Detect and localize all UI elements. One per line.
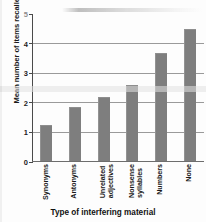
- x-tick-label: None: [186, 164, 194, 182]
- x-tick-label-line: Nonsense: [128, 164, 136, 198]
- x-tick-label-line: Antonyms: [70, 164, 78, 199]
- gridline: [32, 132, 204, 133]
- plot-area: 012345: [32, 14, 204, 162]
- x-tick-label: Synonyms: [43, 164, 51, 200]
- y-axis-line: [32, 14, 33, 162]
- x-tick-label-line: adjectives: [108, 164, 116, 198]
- x-tick-label: Nonsensesyllables: [129, 164, 144, 198]
- gridline: [32, 73, 204, 74]
- x-tick-label: Unrelatedadjectives: [100, 164, 115, 198]
- y-tick-label: 3: [24, 69, 28, 78]
- y-tick-label: 0: [24, 158, 28, 167]
- bar: [69, 107, 81, 161]
- bar: [40, 125, 52, 161]
- bar: [155, 53, 167, 161]
- bar: [184, 29, 196, 161]
- y-tick-label: 5: [24, 10, 28, 19]
- y-tick-mark: [29, 132, 33, 133]
- x-tick-label-line: None: [185, 164, 193, 182]
- gridline: [32, 102, 204, 103]
- x-tick-label-line: syllables: [136, 164, 144, 198]
- scan-artifact-streak: [62, 8, 202, 12]
- x-tick-label-line: Numbers: [156, 164, 164, 195]
- x-axis-line: [32, 161, 204, 162]
- bar: [98, 97, 110, 161]
- y-tick-mark: [29, 102, 33, 103]
- x-tick-label: Antonyms: [71, 164, 79, 199]
- y-tick-mark: [29, 162, 33, 163]
- y-tick-label: 2: [24, 98, 28, 107]
- x-axis-title: Type of interfering material: [0, 208, 206, 217]
- y-tick-mark: [29, 73, 33, 74]
- y-tick-mark: [29, 14, 33, 15]
- y-tick-mark: [29, 43, 33, 44]
- bar-chart-figure: Mean number of items recalled 012345 Typ…: [0, 0, 206, 222]
- plot-inner: 012345: [32, 14, 204, 162]
- page-edge-shadow: [0, 0, 2, 222]
- x-tick-label: Numbers: [157, 164, 165, 195]
- y-tick-label: 1: [24, 128, 28, 137]
- gridline: [32, 43, 204, 44]
- x-tick-label-line: Unrelated: [99, 166, 107, 199]
- x-tick-label-line: Synonyms: [42, 164, 50, 200]
- y-axis-title: Mean number of items recalled: [12, 0, 21, 109]
- y-tick-label: 4: [24, 39, 28, 48]
- bar: [126, 85, 138, 161]
